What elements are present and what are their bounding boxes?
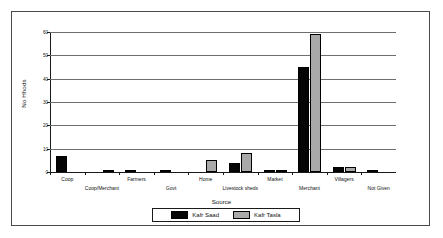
x-tick-mark [327, 172, 328, 175]
bar-group [154, 32, 189, 172]
bar-kafr-saad [160, 170, 171, 172]
x-tick-label: Market [240, 176, 310, 182]
chart-legend: Kafr Saad Kafr Tasla [152, 208, 300, 222]
bar-kafr-tasla [103, 170, 114, 172]
bar-kafr-saad [264, 170, 275, 172]
x-tick-label: Govt [136, 185, 206, 191]
bar-group [258, 32, 293, 172]
bar-kafr-saad [298, 67, 309, 172]
y-tick-label: 40 [43, 76, 48, 81]
y-axis-title: No Hhods [20, 51, 27, 137]
y-tick-label: 30 [43, 100, 48, 105]
legend-label-kafr-saad: Kafr Saad [192, 212, 219, 218]
bar-group [292, 32, 327, 172]
bar-kafr-saad [125, 170, 136, 172]
bar-kafr-tasla [310, 34, 321, 172]
bar-kafr-saad [56, 156, 67, 172]
x-tick-mark [119, 172, 120, 175]
y-tick-label: 0 [45, 170, 48, 175]
legend-item-kafr-saad: Kafr Saad [171, 211, 219, 219]
legend-swatch-kafr-tasla [233, 211, 250, 219]
x-tick-mark [292, 172, 293, 175]
x-tick-mark [188, 172, 189, 175]
x-tick-label: Coop [32, 176, 102, 182]
bar-kafr-saad [367, 170, 378, 172]
bar-kafr-tasla [206, 160, 217, 172]
bar-group [361, 32, 396, 172]
x-tick-label: Coop/Merchant [67, 185, 137, 191]
bar-kafr-saad [229, 163, 240, 172]
bar-group [119, 32, 154, 172]
y-tick-label: 10 [43, 146, 48, 151]
chart-figure: No Hhods 0102030405060 CoopCoop/Merchant… [11, 11, 430, 226]
x-tick-mark [85, 172, 86, 175]
bar-kafr-saad [333, 167, 344, 172]
bar-kafr-tasla [345, 167, 356, 172]
y-tick-label: 50 [43, 53, 48, 58]
x-tick-label: Villagers [309, 176, 379, 182]
bar-kafr-tasla [276, 170, 287, 172]
bar-group [327, 32, 362, 172]
x-tick-label: Not Given [344, 185, 414, 191]
x-tick-label: Merchant [275, 185, 345, 191]
bar-kafr-tasla [241, 153, 252, 172]
x-tick-label: Home [171, 176, 241, 182]
bar-group [223, 32, 258, 172]
x-tick-mark [154, 172, 155, 175]
y-tick-label: 20 [43, 123, 48, 128]
x-tick-mark [223, 172, 224, 175]
x-tick-mark [258, 172, 259, 175]
x-tick-mark [50, 172, 51, 175]
y-tick-label: 60 [43, 30, 48, 35]
x-axis-title: Source [12, 198, 431, 205]
legend-item-kafr-tasla: Kafr Tasla [233, 211, 281, 219]
bar-group [188, 32, 223, 172]
bar-group [50, 32, 85, 172]
legend-label-kafr-tasla: Kafr Tasla [254, 212, 281, 218]
x-tick-mark [361, 172, 362, 175]
plot-area: 0102030405060 [50, 32, 396, 173]
x-tick-label: Farmers [102, 176, 172, 182]
legend-swatch-kafr-saad [171, 211, 188, 219]
x-tick-label: Livestock sheds [205, 185, 275, 191]
bar-group [85, 32, 120, 172]
